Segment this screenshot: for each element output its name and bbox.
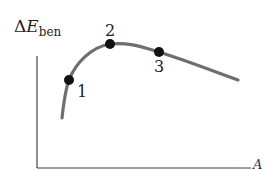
chart: ΔEben A 1 2 3 xyxy=(0,0,278,171)
x-axis-label: A xyxy=(253,157,262,171)
energy-symbol: E xyxy=(26,16,38,36)
data-point-1 xyxy=(64,75,74,85)
y-axis-label: ΔEben xyxy=(14,16,61,39)
point-label-1: 1 xyxy=(77,84,87,100)
delta-symbol: Δ xyxy=(14,16,26,36)
energy-curve xyxy=(62,44,238,118)
subscript-ben: ben xyxy=(39,25,62,39)
data-point-3 xyxy=(154,47,164,57)
data-point-2 xyxy=(105,39,115,49)
point-label-3: 3 xyxy=(154,59,164,75)
point-label-2: 2 xyxy=(105,23,115,39)
